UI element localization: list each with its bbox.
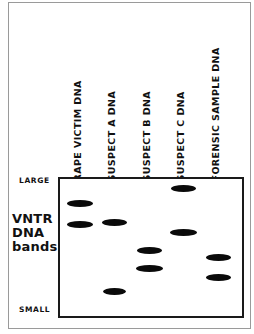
column-label-rape-victim-dna: RAPE VICTIM DNA <box>73 80 83 181</box>
axis-title-line-3: bands <box>12 240 58 254</box>
scale-label-small: SMALL <box>19 305 50 314</box>
column-label-suspect-a-dna: SUSPECT A DNA <box>107 91 117 182</box>
dna-band <box>102 219 127 226</box>
dna-band <box>103 288 126 295</box>
dna-band <box>136 265 163 272</box>
column-label-forensic-sample-dna: FORENSIC SAMPLE DNA <box>211 47 221 181</box>
dna-band <box>206 274 231 281</box>
axis-title-vntr-dna-bands: VNTR DNA bands <box>12 212 58 254</box>
dna-band <box>170 229 197 236</box>
axis-title-line-1: VNTR <box>12 212 58 226</box>
dna-band <box>206 254 231 261</box>
column-label-suspect-c-dna: SUSPECT C DNA <box>176 91 186 181</box>
scale-label-large: LARGE <box>19 176 50 185</box>
dna-band <box>171 185 196 192</box>
column-label-suspect-b-dna: SUSPECT B DNA <box>142 91 152 182</box>
dna-band <box>67 221 93 228</box>
dna-band <box>137 247 162 254</box>
vntr-gel-figure: RAPE VICTIM DNA SUSPECT A DNA SUSPECT B … <box>0 0 254 334</box>
dna-band <box>67 200 93 207</box>
axis-title-line-2: DNA <box>12 226 58 240</box>
gel-box <box>58 177 244 318</box>
